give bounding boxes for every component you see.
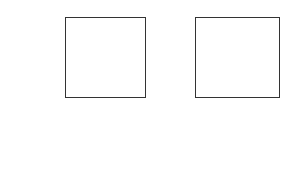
male-chart xyxy=(0,0,283,195)
plot-area xyxy=(195,17,280,98)
